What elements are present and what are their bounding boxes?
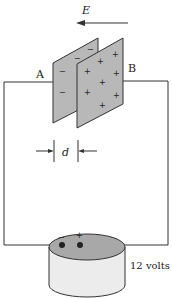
svg-text:+: + [84,67,91,76]
plate-a-label: A [35,68,45,81]
svg-text:+: + [84,88,91,97]
svg-text:−: − [59,88,66,97]
svg-text:−: − [87,45,94,54]
svg-text:+: + [99,101,106,110]
electric-field-arrow [76,20,128,26]
svg-text:−: − [59,67,66,76]
separation-label: d [62,146,69,159]
svg-text:+: + [99,78,106,87]
svg-text:+: + [113,91,120,100]
negative-terminal [59,242,65,248]
battery-positive-sign: + [76,231,83,240]
capacitor-circuit-diagram: E − − − − + + + + + + + + A B d [0,0,172,299]
positive-terminal [77,242,83,248]
plate-b-label: B [128,62,136,75]
svg-text:+: + [112,50,119,59]
field-label: E [81,4,90,17]
svg-text:+: + [97,57,104,66]
svg-text:−: − [74,54,81,63]
battery-voltage-label: 12 volts [130,260,170,271]
battery: − + [49,231,125,297]
svg-text:+: + [113,69,120,78]
battery-negative-sign: − [58,233,65,242]
